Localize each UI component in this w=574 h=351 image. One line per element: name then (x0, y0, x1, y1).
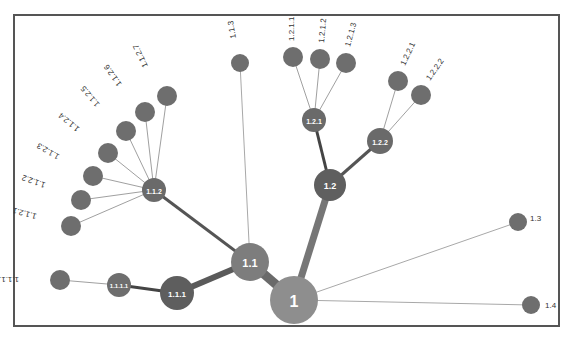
node-label-1-1-2-4: 1.1.2.4 (56, 110, 81, 133)
node-label-1-1-2-6: 1.1.2.6 (102, 62, 124, 88)
edge-layer (60, 57, 531, 305)
node-label-1: 1 (290, 293, 299, 310)
node-1-2-1-2[interactable] (310, 49, 330, 69)
node-label-1-1-3: 1.1.3 (226, 20, 238, 40)
node-label-1-2-1: 1.2.1 (306, 118, 322, 125)
node-1-1-2-6[interactable] (135, 102, 155, 122)
edge-1-to-1-3 (294, 222, 518, 300)
node-1-1-1-1-1[interactable] (50, 270, 70, 290)
node-label-1-1: 1.1 (242, 257, 257, 269)
edge-1-1-to-1-1-3 (240, 63, 250, 262)
node-label-1-1-1: 1.1.1 (168, 290, 186, 299)
node-label-1-1-2-5: 1.1.2.5 (79, 84, 102, 109)
node-label-1-1-2: 1.1.2 (146, 188, 162, 195)
node-1-1-2-2[interactable] (71, 190, 91, 210)
node-label-1-1-2-1: 1.1.2.1 (11, 206, 37, 221)
node-label-1-2-1-2: 1.2.1.2 (317, 17, 328, 43)
node-1-3[interactable] (509, 213, 527, 231)
node-1-2-1-3[interactable] (336, 53, 356, 73)
radial-tree-diagram: 11.11.21.31.41.1.11.1.21.1.31.1.1.11.1.1… (0, 0, 574, 351)
node-1-4[interactable] (522, 296, 540, 314)
node-1-1-2-3[interactable] (83, 166, 103, 186)
node-label-1-2-1-3: 1.2.1.3 (343, 21, 358, 47)
node-1-2-2-2[interactable] (411, 85, 431, 105)
label-layer: 11.11.21.31.41.1.11.1.21.1.31.1.1.11.1.1… (0, 16, 557, 310)
edge-1-1-2-to-1-1-2-7 (154, 96, 167, 190)
node-1-1-2-4[interactable] (98, 143, 118, 163)
node-1-2-1-1[interactable] (283, 47, 303, 67)
node-label-1-1-1-1-1: 1.1.1.1.1 (0, 275, 19, 284)
node-label-1-2-1-1: 1.2.1.1 (287, 16, 296, 41)
node-label-1-2: 1.2 (324, 181, 337, 191)
node-label-1-2-2: 1.2.2 (372, 139, 388, 146)
node-1-1-2-7[interactable] (157, 86, 177, 106)
edge-1-to-1-4 (294, 300, 531, 305)
node-1-2-2-1[interactable] (388, 71, 408, 91)
node-label-1-2-2-1: 1.2.2.1 (399, 40, 418, 66)
node-label-1-2-2-2: 1.2.2.2 (424, 56, 446, 82)
node-label-1-4: 1.4 (545, 301, 557, 310)
node-label-1-3: 1.3 (530, 214, 542, 223)
node-label-1-1-2-7: 1.1.2.7 (131, 42, 150, 68)
node-1-1-2-1[interactable] (61, 216, 81, 236)
node-label-1-1-1-1: 1.1.1.1 (110, 283, 129, 289)
node-1-1-2-5[interactable] (116, 121, 136, 141)
node-label-1-1-2-2: 1.1.2.2 (20, 173, 47, 190)
node-label-1-1-2-3: 1.1.2.3 (35, 141, 61, 161)
node-1-1-3[interactable] (231, 54, 249, 72)
